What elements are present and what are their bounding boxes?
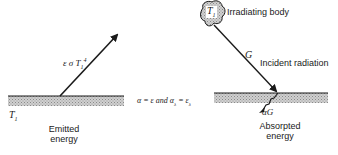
- irradiating-body-temperature: T1: [207, 6, 216, 20]
- left-surface: [8, 96, 124, 106]
- irradiating-body-caption: Irradiating body: [227, 7, 289, 17]
- emitted-energy-caption: Emitted energy: [44, 124, 84, 144]
- incident-symbol: G: [245, 50, 252, 60]
- surface-temperature-label: T1: [9, 110, 18, 124]
- emission-label: ε σ T14: [63, 55, 87, 72]
- absorbed-energy-caption: Absorpted energy: [254, 121, 306, 141]
- equality-relation: α = ε and αλ = ελ: [137, 96, 191, 110]
- incident-caption: Incident radiation: [260, 58, 329, 68]
- absorbed-symbol: αG: [262, 107, 273, 117]
- right-surface: [214, 93, 328, 103]
